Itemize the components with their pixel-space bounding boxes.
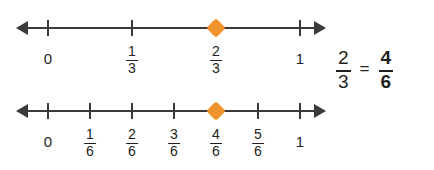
fraction-denominator: 6 [379, 70, 394, 92]
fraction-label: 26 [126, 127, 138, 158]
tick-label: 26 [126, 127, 138, 158]
equation-right-fraction: 4 6 [379, 48, 394, 92]
axis-line [26, 110, 316, 112]
number-line-thirds: 013231 [0, 12, 330, 86]
fraction-numerator: 2 [210, 44, 222, 59]
fraction-number-line-figure: 013231 016263646561 2 3 = 4 6 [0, 0, 434, 170]
fraction-numerator: 1 [84, 127, 96, 142]
arrow-right-icon [314, 21, 326, 35]
tick-label: 46 [210, 127, 222, 158]
point-marker [206, 18, 226, 38]
fraction-numerator: 2 [126, 127, 138, 142]
fraction-numerator: 1 [126, 44, 138, 59]
tick-label: 13 [126, 44, 138, 75]
tick-label: 0 [44, 44, 52, 66]
tick-mark [89, 103, 91, 119]
tick-label: 23 [210, 44, 222, 75]
number-line-axis-sixths [0, 95, 330, 127]
point-marker [206, 101, 226, 121]
fraction-denominator: 6 [252, 143, 264, 159]
tick-label: 0 [44, 127, 52, 149]
equation-left-fraction: 2 3 [336, 48, 351, 92]
fraction-label: 13 [126, 44, 138, 75]
tick-mark [173, 103, 175, 119]
tick-label: 36 [168, 127, 180, 158]
tick-mark [131, 20, 133, 36]
fraction-denominator: 3 [126, 60, 138, 76]
tick-label-layer: 013231 [0, 44, 330, 86]
fraction-denominator: 3 [336, 70, 351, 92]
fraction-label: 23 [210, 44, 222, 75]
tick-mark [299, 103, 301, 119]
tick-mark [47, 103, 49, 119]
fraction-denominator: 6 [84, 143, 96, 159]
number-line-axis-thirds [0, 12, 330, 44]
tick-mark [47, 20, 49, 36]
tick-label-layer: 016263646561 [0, 127, 330, 169]
arrow-left-icon [16, 104, 28, 118]
fraction-numerator: 2 [336, 48, 351, 68]
fraction-denominator: 6 [168, 143, 180, 159]
equals-sign: = [360, 60, 370, 79]
fraction-label: 46 [210, 127, 222, 158]
fraction-numerator: 3 [168, 127, 180, 142]
fraction-numerator: 4 [210, 127, 222, 142]
arrow-left-icon [16, 21, 28, 35]
arrow-right-icon [314, 104, 326, 118]
axis-line [26, 27, 316, 29]
fraction-denominator: 6 [210, 143, 222, 159]
tick-mark [257, 103, 259, 119]
tick-label: 1 [296, 127, 304, 149]
fraction-denominator: 3 [210, 60, 222, 76]
equivalence-equation: 2 3 = 4 6 [336, 48, 393, 92]
tick-label: 1 [296, 44, 304, 66]
fraction-label: 16 [84, 127, 96, 158]
fraction-denominator: 6 [126, 143, 138, 159]
tick-label: 16 [84, 127, 96, 158]
tick-label: 56 [252, 127, 264, 158]
fraction-label: 36 [168, 127, 180, 158]
fraction-label: 56 [252, 127, 264, 158]
number-line-sixths: 016263646561 [0, 95, 330, 169]
fraction-numerator: 4 [379, 48, 394, 68]
fraction-numerator: 5 [252, 127, 264, 142]
tick-mark [131, 103, 133, 119]
tick-mark [299, 20, 301, 36]
